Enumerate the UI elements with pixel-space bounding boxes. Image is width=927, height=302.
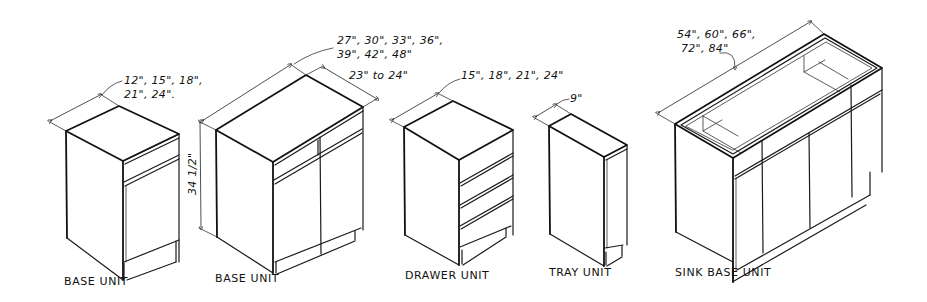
tray-unit-drawing — [533, 99, 627, 266]
drawer-unit-width-label: 15", 18", 21", 24" — [461, 69, 564, 82]
base-unit-double-height-label: 34 1/2" — [186, 153, 199, 195]
base-unit-single-drawing — [48, 81, 179, 280]
sink-base-unit-caption: SINK BASE UNIT — [675, 266, 771, 279]
sink-base-unit-drawing — [656, 21, 882, 282]
base-unit-single-width-label-2: 21", 24". — [124, 88, 175, 101]
base-unit-single-width-label-1: 12", 15", 18", — [124, 74, 203, 87]
cabinet-diagram: 12", 15", 18", 21", 24". BASE UNIT 27", … — [0, 0, 927, 302]
base-unit-double-caption: BASE UNIT — [215, 272, 279, 285]
base-unit-double-depth-label: 23" to 24" — [349, 69, 408, 82]
tray-unit-caption: TRAY UNIT — [548, 266, 611, 279]
base-unit-double-width-label-1: 27", 30", 33", 36", — [337, 34, 443, 47]
base-unit-single-caption: BASE UNIT — [64, 275, 128, 288]
base-unit-double-width-label-2: 39", 42", 48" — [337, 48, 412, 61]
drawer-unit-drawing — [390, 79, 513, 265]
sink-base-unit-width-label-1: 54", 60", 66", — [677, 28, 756, 41]
tray-unit-width-label: 9" — [570, 92, 583, 105]
drawer-unit-caption: DRAWER UNIT — [405, 269, 489, 282]
sink-base-unit-width-label-2: 72", 84" — [681, 42, 729, 55]
